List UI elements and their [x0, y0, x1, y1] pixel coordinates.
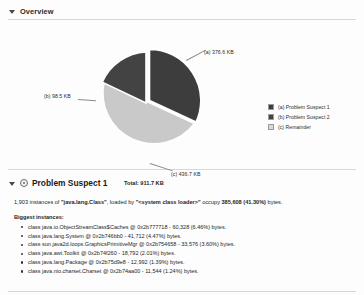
chart-legend: (a) Problem Suspect 1 (b) Problem Suspec…	[268, 104, 330, 130]
legend-label-a: (a) Problem Suspect 1	[278, 104, 330, 110]
leader-line-c	[150, 163, 173, 171]
legend-label-c: (c) Remainder	[278, 124, 311, 130]
suspect-summary: 1,903 instances of "java.lang.Class", lo…	[14, 198, 350, 207]
list-item[interactable]: class java.awt.Toolkit @ 0x2b74f260 - 18…	[28, 249, 364, 258]
chevron-down-icon[interactable]	[9, 8, 16, 15]
summary-suffix: occupy	[201, 199, 222, 205]
list-item[interactable]: class java.nio.charset.Charset @ 0x2b74a…	[28, 267, 364, 276]
list-item[interactable]: class java.lang.Package @ 0x2b75d9e8 - 1…	[28, 258, 364, 267]
summary-end: bytes.	[266, 199, 282, 205]
legend-swatch-c	[268, 124, 274, 130]
overview-section-header[interactable]: Overview	[0, 0, 364, 16]
overview-chart: (a) 376.6 KB (b) 98.5 KB (c) 436.7 KB To…	[0, 20, 364, 166]
pie-chart-svg	[96, 50, 200, 154]
legend-swatch-b	[268, 114, 274, 120]
legend-label-b: (b) Problem Suspect 2	[278, 114, 330, 120]
list-item[interactable]: class sun.java2d.loops.GraphicsPrimitive…	[28, 240, 364, 249]
pie-label-a: (a) 376.6 KB	[204, 49, 234, 55]
legend-item[interactable]: (a) Problem Suspect 1	[268, 104, 330, 110]
biggest-instances-list: class java.io.ObjectStreamClass$Caches @…	[0, 223, 364, 276]
problem-suspect-title: Problem Suspect 1	[32, 178, 107, 188]
chevron-down-icon[interactable]	[9, 180, 16, 187]
list-item[interactable]: class java.lang.System @ 0x2b746bb0 - 41…	[28, 232, 364, 241]
legend-item[interactable]: (b) Problem Suspect 2	[268, 114, 330, 120]
summary-loader: "<system class loader>"	[136, 199, 201, 205]
report-page: Overview (a) 376.6 KB (b) 98.5 KB (c) 43…	[0, 0, 364, 295]
summary-mid: , loaded by	[107, 199, 136, 205]
legend-swatch-a	[268, 104, 274, 110]
summary-bytes: 385,608 (41.30%)	[222, 199, 266, 205]
summary-class: "java.lang.Class"	[61, 199, 107, 205]
divider	[8, 169, 356, 170]
leader-line-b	[78, 99, 96, 101]
page-title: Overview	[20, 7, 54, 16]
problem-suspect-header[interactable]: Problem Suspect 1	[0, 176, 364, 190]
divider	[8, 291, 356, 292]
summary-prefix: 1,903 instances of	[14, 199, 61, 205]
list-item[interactable]: class java.io.ObjectStreamClass$Caches @…	[28, 223, 364, 232]
pie-label-c: (c) 436.7 KB	[171, 171, 200, 177]
legend-item[interactable]: (c) Remainder	[268, 124, 330, 130]
pie-total-label: Total: 911.7 KB	[124, 180, 164, 186]
biggest-instances-label: Biggest instances:	[14, 214, 350, 220]
lightbulb-icon	[20, 179, 28, 187]
pie-chart	[96, 50, 200, 154]
pie-label-b: (b) 98.5 KB	[44, 93, 71, 99]
